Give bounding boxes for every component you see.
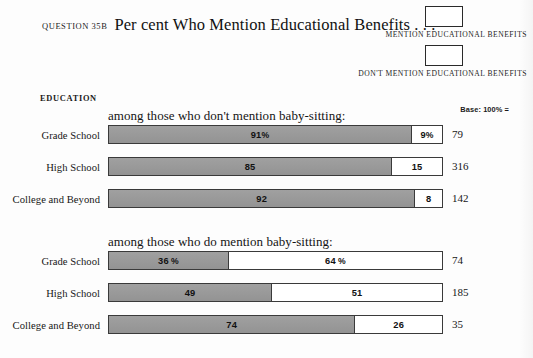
legend: Mention Educational Benefits Don't Menti… [217,6,527,84]
row-label: College and Beyond [0,320,100,331]
bar-segment-dont-mention: 26 [355,316,442,333]
bar-value-dont-mention: 51 [352,288,363,298]
row-label: High School [0,288,100,299]
table-row: High School 85 15 316 [0,156,533,188]
bar-value-mention: 49 [185,288,196,298]
chart-header: Question 35B Per cent Who Mention Educat… [0,0,533,92]
row-base-value: 185 [452,286,469,298]
stacked-bar: 91% 9% [108,125,443,144]
row-label: Grade School [0,130,100,141]
bar-segment-mention: 85 [109,158,392,175]
row-base-value: 74 [452,254,463,266]
stacked-bar: 92 8 [108,189,443,208]
legend-item-dont-mention: Don't Mention Educational Benefits [217,45,527,78]
table-row: Grade School 91% 9% 79 [0,124,533,156]
group-caption: among those who do mention baby-sitting: [108,234,333,250]
row-base-value: 79 [452,128,463,140]
table-row: Grade School 36 % 64 % 74 [0,250,533,282]
bar-value-mention: 74 [226,320,237,330]
row-label: Grade School [0,256,100,267]
bar-segment-dont-mention: 8 [415,190,442,207]
row-base-value: 35 [452,318,463,330]
bar-value-dont-mention: 26 [393,320,404,330]
bar-segment-dont-mention: 51 [272,284,442,301]
table-row: College and Beyond 74 26 35 [0,314,533,346]
bar-value-mention: 85 [245,162,256,172]
stacked-bar: 36 % 64 % [108,251,443,270]
base-note: Base: 100% = [460,105,509,114]
stacked-bar: 74 26 [108,315,443,334]
group-caption: among those who don't mention baby-sitti… [108,108,345,124]
stacked-bar: 49 51 [108,283,443,302]
table-row: High School 49 51 185 [0,282,533,314]
bar-segment-mention: 36 % [109,252,229,269]
bar-value-dont-mention: 15 [412,162,423,172]
row-base-value: 316 [452,160,469,172]
row-base-value: 142 [452,192,469,204]
bar-value-dont-mention: 64 % [325,256,346,266]
bar-rows: Grade School 36 % 64 % 74 High School 49 [0,250,533,346]
bar-segment-mention: 74 [109,316,355,333]
legend-label-mention: Mention Educational Benefits [385,30,527,39]
bar-segment-mention: 91% [109,126,412,143]
document-page: Question 35B Per cent Who Mention Educat… [0,0,533,358]
bar-value-dont-mention: 8 [426,194,431,204]
stacked-bar: 85 15 [108,157,443,176]
bar-rows: Grade School 91% 9% 79 High School 85 [0,124,533,220]
row-label: High School [0,162,100,173]
bar-segment-mention: 92 [109,190,415,207]
bar-segment-dont-mention: 9% [412,126,442,143]
bar-segment-dont-mention: 15 [392,158,442,175]
question-number-label: Question 35B [42,21,107,31]
legend-label-dont-mention: Don't Mention Educational Benefits [358,69,527,78]
table-row: College and Beyond 92 8 142 [0,188,533,220]
bar-value-mention: 92 [256,194,267,204]
bar-segment-dont-mention: 64 % [229,252,442,269]
bar-value-mention: 36 % [158,256,179,266]
bar-segment-mention: 49 [109,284,272,301]
breakdown-label-education: Education [40,94,97,103]
legend-swatch-dont-mention-icon [425,45,463,66]
bar-value-mention: 91% [251,130,270,140]
legend-item-mention: Mention Educational Benefits [217,6,527,39]
row-label: College and Beyond [0,194,100,205]
bar-value-dont-mention: 9% [420,130,433,140]
legend-swatch-mention-icon [425,6,463,27]
